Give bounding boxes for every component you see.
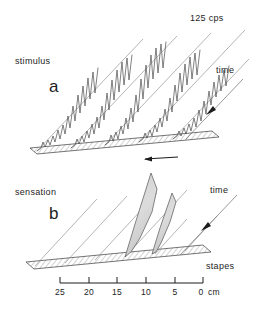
frequency-label: 125 cps: [190, 14, 224, 23]
tick-label-25: 25: [55, 288, 65, 297]
tick-label-15: 15: [112, 288, 122, 297]
panel-a-group: [30, 30, 249, 162]
panel-b-title: sensation: [15, 188, 56, 197]
panel-a-letter: a: [49, 78, 58, 95]
panel-b-base-strip: [26, 245, 211, 269]
panel-b-time-axis: [180, 195, 237, 255]
panel-b-letter: b: [49, 205, 58, 222]
tick-label-5: 5: [173, 288, 178, 297]
panel-b-time-label: time: [210, 186, 228, 195]
tick-label-20: 20: [84, 288, 94, 297]
sensation-lobe-large: [125, 173, 157, 257]
figure-root: 125 cps stimulus a time sensation b time…: [0, 0, 262, 311]
tick-label-0: 0: [199, 288, 204, 297]
panel-a-title: stimulus: [15, 57, 50, 66]
stapes-label: stapes: [206, 262, 234, 271]
panel-b-sensation-lobes: [125, 173, 176, 257]
panel-a-time-label: time: [216, 66, 234, 75]
scale-unit-label: cm: [208, 288, 220, 297]
distance-scale-ruler: [60, 277, 203, 283]
tick-label-10: 10: [141, 288, 151, 297]
wave-travel-arrow: [144, 157, 178, 162]
